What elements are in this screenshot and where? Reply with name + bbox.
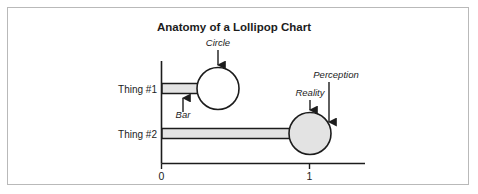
chart-title: Anatomy of a Lollipop Chart	[157, 21, 311, 33]
annotation-label-reality: Reality	[295, 87, 325, 98]
annotation-label-circle: Circle	[206, 37, 230, 48]
category-label-thing-2: Thing #2	[118, 129, 157, 140]
x-tick-label-0: 0	[159, 170, 165, 182]
x-tick-label-1: 1	[307, 170, 313, 182]
lollipop-circle-thing-1	[197, 68, 239, 110]
figure-frame: Anatomy of a Lollipop Chart 0 1 Thing #1…	[7, 7, 469, 185]
category-label-thing-1: Thing #1	[118, 84, 157, 95]
lollipop-chart: Anatomy of a Lollipop Chart 0 1 Thing #1…	[8, 8, 468, 184]
bar-thing-2	[162, 129, 310, 139]
annotation-label-perception: Perception	[313, 69, 358, 80]
lollipop-circle-thing-2	[289, 113, 331, 155]
